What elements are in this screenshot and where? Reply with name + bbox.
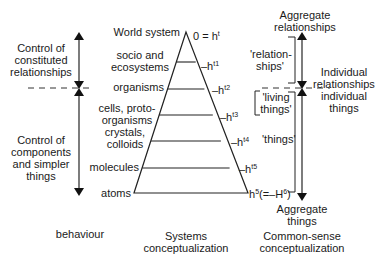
label-line: conceptualization xyxy=(252,242,352,254)
label-line: components xyxy=(8,146,74,158)
label-line: and simpler xyxy=(8,158,74,170)
level-marker: –ht4 xyxy=(231,136,249,148)
label-line: relationships xyxy=(306,78,382,90)
level-marker: 0 = ht xyxy=(193,30,220,42)
label-line: Control of xyxy=(10,42,72,54)
level-label-cells: cells, proto- organisms xyxy=(96,102,158,126)
label-line: Common-sense xyxy=(252,230,352,242)
level-marker: –ht3 xyxy=(220,111,238,123)
level-label-atoms: atoms xyxy=(80,187,131,199)
label-line: things xyxy=(306,102,382,114)
level-label-crystals: crystals, colloids xyxy=(100,126,150,150)
level-label-world-system: World system xyxy=(100,26,180,38)
systems-conceptualization-label: Systems conceptualization xyxy=(136,230,236,254)
label-line: Aggregate xyxy=(270,9,340,21)
level-marker: –ht5 xyxy=(239,163,257,175)
label-line: things xyxy=(8,170,74,182)
label-line: ships' xyxy=(250,60,290,72)
label-line: Systems xyxy=(136,230,236,242)
label-line: 'relation- xyxy=(250,48,290,60)
control-constituted-relationships-label: Control of constituted relationships xyxy=(10,42,72,78)
label-line: relationships xyxy=(270,21,340,33)
aggregate-relationships-label: Aggregate relationships xyxy=(270,9,340,33)
label-line: 'living xyxy=(260,91,292,103)
relationships-bracket-label: 'relation- ships' xyxy=(250,48,290,72)
label-line: Aggregate xyxy=(272,203,332,215)
control-components-label: Control of components and simpler things xyxy=(8,134,74,182)
level-marker-base: h5(=–H6) xyxy=(249,188,291,200)
level-label-organisms: organisms xyxy=(100,81,164,93)
things-bracket-label: 'things' xyxy=(262,133,296,145)
label-line: individual xyxy=(306,90,382,102)
label-line: conceptualization xyxy=(136,242,236,254)
level-label-molecules: molecules xyxy=(80,161,139,173)
living-things-bracket-label: 'living things' xyxy=(260,91,292,115)
aggregate-things-label: Aggregate things xyxy=(272,203,332,227)
level-label-socio-ecosystems: socio and ecosystems xyxy=(108,49,172,73)
behaviour-label: behaviour xyxy=(40,228,120,240)
label-line: things xyxy=(272,215,332,227)
common-sense-conceptualization-label: Common-sense conceptualization xyxy=(252,230,352,254)
label-line: things' xyxy=(260,103,292,115)
label-line: constituted xyxy=(10,54,72,66)
level-marker: –ht1 xyxy=(201,60,219,72)
label-line: Control of xyxy=(8,134,74,146)
level-marker: –ht2 xyxy=(212,84,230,96)
individual-relationships-things-label: Individual relationships individual thin… xyxy=(306,66,382,114)
label-line: Individual xyxy=(306,66,382,78)
label-line: relationships xyxy=(10,66,72,78)
